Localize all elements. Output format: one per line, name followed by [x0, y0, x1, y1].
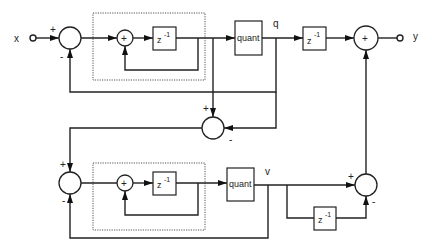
differentiator-summer [355, 174, 377, 196]
sign-minus: - [60, 51, 63, 62]
svg-text:quant: quant [237, 33, 260, 43]
svg-text:z: z [157, 35, 162, 45]
output-label-y: y [413, 31, 418, 42]
svg-text:-: - [229, 134, 232, 145]
svg-text:-: - [372, 196, 375, 207]
output-terminal [397, 35, 403, 41]
signal-label-v: v [265, 166, 270, 177]
svg-text:-1: -1 [164, 176, 170, 183]
mash-block-diagram: x + - + z -1 quant q z -1 + y + [0, 0, 432, 249]
svg-text:-1: -1 [314, 31, 320, 38]
svg-text:+: + [362, 33, 368, 44]
svg-text:quant: quant [229, 179, 252, 189]
input-label-x: x [14, 33, 19, 44]
summer-bottom-input [59, 172, 81, 194]
svg-text:+: + [121, 33, 127, 44]
sign-plus: + [50, 24, 56, 35]
svg-text:z: z [318, 215, 323, 225]
svg-text:+: + [348, 171, 354, 182]
svg-text:+: + [203, 103, 209, 114]
svg-text:-1: -1 [325, 211, 331, 218]
svg-text:+: + [121, 178, 127, 189]
error-summer [202, 117, 224, 139]
svg-text:-1: -1 [164, 31, 170, 38]
svg-text:z: z [157, 180, 162, 190]
input-terminal [30, 35, 36, 41]
svg-text:-: - [62, 195, 65, 206]
svg-text:+: + [60, 159, 66, 170]
summer-top-input [59, 27, 81, 49]
integrator-box-bottom [93, 163, 205, 230]
signal-label-q: q [273, 18, 279, 29]
svg-text:z: z [307, 36, 312, 46]
